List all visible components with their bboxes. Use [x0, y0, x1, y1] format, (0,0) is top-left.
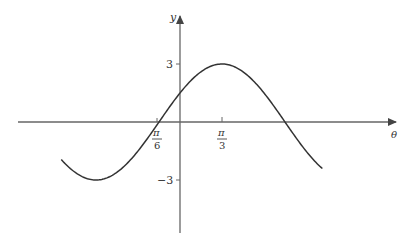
x-tick-pi6-num: π — [152, 127, 160, 138]
y-tick-label-3: 3 — [166, 58, 173, 71]
y-axis-label: y — [169, 11, 177, 24]
x-tick-pi6-den: 6 — [154, 140, 160, 151]
sine-chart: y θ 3 −3 π 6 π 3 — [0, 0, 415, 245]
y-tick-label-neg3: −3 — [157, 174, 173, 187]
x-tick-pi3-den: 3 — [219, 140, 225, 151]
x-axis-label: θ — [391, 129, 397, 140]
x-tick-pi3-num: π — [217, 127, 225, 138]
